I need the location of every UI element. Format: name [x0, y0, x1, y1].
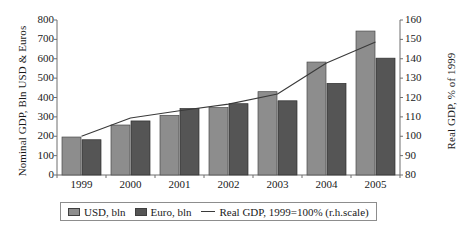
legend-swatch-euro-icon [135, 208, 147, 216]
legend-item-euro: Euro, bln [135, 206, 192, 218]
legend-swatch-line-icon [201, 211, 215, 212]
bar-euro-2002 [229, 104, 248, 175]
x-axis-labels: 1999200020012002200320042005 [57, 178, 400, 196]
bar-usd-2001 [160, 115, 179, 175]
legend-swatch-usd-icon [68, 208, 80, 216]
x-tick-label-2004: 2004 [304, 178, 350, 190]
bar-euro-2005 [376, 58, 395, 175]
bar-usd-2003 [258, 92, 277, 175]
bar-usd-2004 [307, 62, 326, 175]
legend-label-euro: Euro, bln [151, 206, 192, 218]
legend-label-real-gdp: Real GDP, 1999=100% (r.h.scale) [220, 206, 369, 218]
bar-euro-2003 [278, 101, 297, 175]
legend-item-real-gdp: Real GDP, 1999=100% (r.h.scale) [201, 206, 369, 218]
bar-usd-2002 [209, 108, 228, 175]
x-tick-label-2001: 2001 [157, 178, 203, 190]
legend-label-usd: USD, bln [84, 206, 126, 218]
bar-euro-2004 [327, 83, 346, 175]
legend-item-usd: USD, bln [68, 206, 126, 218]
bar-usd-2005 [356, 31, 375, 175]
bar-euro-2001 [180, 109, 199, 175]
bar-usd-1999 [62, 137, 81, 175]
chart-legend: USD, bln Euro, bln Real GDP, 1999=100% (… [60, 202, 377, 221]
x-tick-label-2002: 2002 [206, 178, 252, 190]
bar-usd-2000 [111, 125, 130, 175]
bar-euro-2000 [131, 121, 150, 175]
bar-euro-1999 [82, 140, 101, 175]
x-tick-label-2003: 2003 [255, 178, 301, 190]
x-tick-label-1999: 1999 [59, 178, 105, 190]
x-tick-label-2000: 2000 [108, 178, 154, 190]
x-tick-label-2005: 2005 [353, 178, 399, 190]
